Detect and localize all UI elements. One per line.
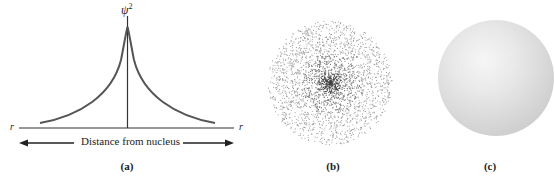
panel-a-psi-squared-plot: ψ2 r r Distance from nucleus (a) <box>0 0 260 181</box>
psi-squared-curve-plot <box>0 0 260 181</box>
caption-c: (c) <box>484 160 496 172</box>
x-axis-title: Distance from nucleus <box>78 135 183 147</box>
x-axis-right-label: r <box>239 121 243 132</box>
boundary-sphere <box>438 20 554 136</box>
panel-b-electron-cloud: (b) <box>260 0 420 181</box>
electron-dot-cloud <box>260 0 420 181</box>
caption-b: (b) <box>326 160 339 172</box>
y-axis-label: ψ2 <box>121 2 132 18</box>
panel-c-sphere: (c) <box>420 0 555 181</box>
caption-a: (a) <box>121 160 134 172</box>
x-axis-left-label: r <box>10 121 14 132</box>
